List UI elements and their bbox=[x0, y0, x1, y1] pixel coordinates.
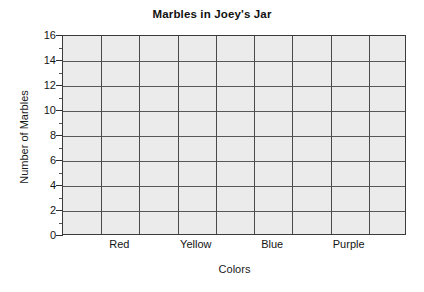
y-axis-tick-label: 4 bbox=[32, 179, 56, 191]
chart-figure: Marbles in Joey's Jar Number of Marbles … bbox=[0, 0, 424, 292]
x-axis-tick-label: Red bbox=[109, 238, 129, 250]
y-axis-tick-major bbox=[56, 235, 63, 236]
x-axis-title: Colors bbox=[62, 263, 407, 275]
y-axis-tick-label: 2 bbox=[32, 204, 56, 216]
chart-title: Marbles in Joey's Jar bbox=[0, 8, 424, 20]
x-axis-tick-label: Purple bbox=[333, 238, 365, 250]
plot-area bbox=[62, 35, 406, 235]
bars-layer bbox=[63, 36, 405, 234]
y-axis-tick-label: 12 bbox=[32, 79, 56, 91]
y-axis-tick-labels: 0246810121416 bbox=[30, 35, 56, 235]
y-axis-tick-label: 6 bbox=[32, 154, 56, 166]
y-axis-tick-label: 8 bbox=[32, 129, 56, 141]
x-axis-tick-labels: RedYellowBluePurple bbox=[62, 238, 406, 256]
y-axis-tick-label: 10 bbox=[32, 104, 56, 116]
y-axis-tick-label: 14 bbox=[32, 54, 56, 66]
y-axis-tick-label: 0 bbox=[32, 229, 56, 241]
y-axis-title: Number of Marbles bbox=[18, 52, 30, 222]
y-axis-tick-label: 16 bbox=[32, 29, 56, 41]
x-axis-tick-label: Yellow bbox=[180, 238, 211, 250]
x-axis-tick-label: Blue bbox=[261, 238, 283, 250]
